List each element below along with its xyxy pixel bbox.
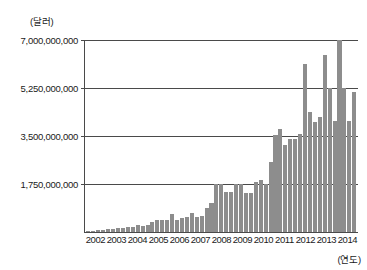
bar bbox=[219, 184, 223, 232]
bar bbox=[347, 121, 351, 232]
bar bbox=[170, 214, 174, 232]
x-axis-tick-label: 2010 bbox=[253, 234, 274, 248]
bar bbox=[96, 230, 100, 232]
x-axis-tick-label: 2007 bbox=[190, 234, 211, 248]
x-axis-tick-labels: 2002200320042005200620072008200920102011… bbox=[85, 234, 358, 248]
bar bbox=[333, 121, 337, 232]
bar bbox=[298, 134, 302, 232]
bar bbox=[155, 220, 159, 232]
bar-series bbox=[85, 40, 358, 232]
bar bbox=[273, 135, 277, 232]
bar bbox=[160, 220, 164, 232]
bar bbox=[239, 184, 243, 232]
bar bbox=[190, 213, 194, 232]
bar-chart: (달러) 7,000,000,0005,250,000,0003,500,000… bbox=[0, 0, 367, 270]
bar bbox=[283, 145, 287, 232]
x-axis-tick-label: 2008 bbox=[211, 234, 232, 248]
bar bbox=[165, 220, 169, 232]
bar bbox=[131, 227, 135, 232]
bar bbox=[308, 112, 312, 232]
bar bbox=[229, 192, 233, 232]
y-axis-tick-label: 7,000,000,000 bbox=[20, 35, 78, 46]
bar bbox=[185, 217, 189, 232]
bar bbox=[318, 117, 322, 232]
bar bbox=[234, 184, 238, 232]
x-axis-tick-label: 2012 bbox=[295, 234, 316, 248]
bar bbox=[86, 231, 90, 232]
bar bbox=[116, 228, 120, 232]
y-axis-tick-label: 3,500,000,000 bbox=[20, 131, 78, 142]
bar bbox=[195, 217, 199, 232]
bar bbox=[111, 229, 115, 232]
x-axis-tick-label: 2014 bbox=[337, 234, 358, 248]
bar bbox=[278, 129, 282, 232]
bar bbox=[175, 220, 179, 232]
x-axis-tick-label: 2005 bbox=[148, 234, 169, 248]
bar bbox=[254, 182, 258, 232]
bar bbox=[328, 88, 332, 232]
bar bbox=[209, 203, 213, 232]
x-axis-tick-label: 2006 bbox=[169, 234, 190, 248]
bar bbox=[288, 139, 292, 232]
bar bbox=[106, 229, 110, 232]
bar bbox=[205, 208, 209, 232]
bar bbox=[150, 222, 154, 232]
bar bbox=[264, 184, 268, 232]
y-axis-unit-label: (달러) bbox=[30, 14, 54, 28]
x-axis-tick-label: 2004 bbox=[127, 234, 148, 248]
bar bbox=[249, 193, 253, 232]
x-axis-unit-label: (연도) bbox=[337, 252, 361, 266]
bar bbox=[146, 225, 150, 232]
x-axis-tick-label: 2009 bbox=[232, 234, 253, 248]
bar bbox=[337, 40, 341, 232]
bar bbox=[214, 184, 218, 232]
bar bbox=[244, 193, 248, 232]
bar bbox=[342, 88, 346, 232]
plot-area: 7,000,000,0005,250,000,0003,500,000,0001… bbox=[85, 40, 358, 232]
y-axis-tick-label: 1,750,000,000 bbox=[20, 179, 78, 190]
x-axis-tick-label: 2002 bbox=[85, 234, 106, 248]
x-axis-tick-label: 2003 bbox=[106, 234, 127, 248]
bar bbox=[200, 216, 204, 232]
y-axis-tick-label: 5,250,000,000 bbox=[20, 83, 78, 94]
bar bbox=[269, 162, 273, 232]
x-axis-tick-label: 2013 bbox=[316, 234, 337, 248]
bar bbox=[303, 64, 307, 232]
bar bbox=[121, 228, 125, 232]
x-axis-tick-label: 2011 bbox=[274, 234, 295, 248]
bar bbox=[141, 226, 145, 232]
bar bbox=[180, 218, 184, 232]
bar bbox=[126, 227, 130, 232]
bar bbox=[91, 231, 95, 232]
bar bbox=[136, 225, 140, 232]
bar bbox=[259, 180, 263, 232]
bar bbox=[313, 122, 317, 232]
x-axis-line bbox=[84, 232, 358, 233]
bar bbox=[224, 192, 228, 232]
bar bbox=[323, 55, 327, 232]
bar bbox=[352, 92, 356, 232]
bar bbox=[101, 230, 105, 232]
bar bbox=[293, 139, 297, 232]
